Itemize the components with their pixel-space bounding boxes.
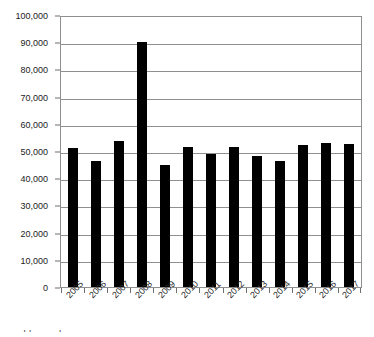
bars-layer xyxy=(61,16,361,287)
bar-slot xyxy=(338,16,361,287)
bar-slot xyxy=(61,16,84,287)
bar-slot xyxy=(246,16,269,287)
bar-2014[interactable] xyxy=(275,161,285,287)
bar-chart-figure: 010,00020,00030,00040,00050,00060,00070,… xyxy=(0,0,374,337)
y-axis-tick-label: 70,000 xyxy=(20,93,48,103)
bar-2009[interactable] xyxy=(160,165,170,287)
bar-2008[interactable] xyxy=(137,42,147,287)
y-axis-tick-label: 0 xyxy=(43,283,48,293)
bar-2015[interactable] xyxy=(298,145,308,287)
y-axis-tick-label: 60,000 xyxy=(20,120,48,130)
bar-2011[interactable] xyxy=(206,154,216,287)
bar-slot xyxy=(292,16,315,287)
y-axis-tick-label: 50,000 xyxy=(20,147,48,157)
bar-slot xyxy=(199,16,222,287)
bar-2006[interactable] xyxy=(91,161,101,287)
bar-slot xyxy=(107,16,130,287)
bar-2013[interactable] xyxy=(252,156,262,287)
x-axis-labels: 2005200620072008200920102011201220132014… xyxy=(61,293,361,327)
caption-clip: clipped caption xyxy=(0,330,374,337)
y-axis-tick-label: 80,000 xyxy=(20,65,48,75)
bar-2016[interactable] xyxy=(321,143,331,287)
y-axis: 010,00020,00030,00040,00050,00060,00070,… xyxy=(0,0,56,337)
bar-2010[interactable] xyxy=(183,147,193,287)
y-axis-tick-label: 20,000 xyxy=(20,229,48,239)
bar-slot xyxy=(315,16,338,287)
bar-2005[interactable] xyxy=(68,148,78,287)
bar-2017[interactable] xyxy=(344,144,354,287)
bar-slot xyxy=(130,16,153,287)
bar-slot xyxy=(223,16,246,287)
bar-slot xyxy=(269,16,292,287)
y-axis-tick-label: 100,000 xyxy=(15,11,48,21)
y-axis-tick-label: 30,000 xyxy=(20,201,48,211)
bar-slot xyxy=(176,16,199,287)
bar-slot xyxy=(153,16,176,287)
bar-slot xyxy=(84,16,107,287)
figure-caption: clipped caption xyxy=(14,330,81,332)
bar-2007[interactable] xyxy=(114,141,124,287)
y-axis-tick-label: 90,000 xyxy=(20,38,48,48)
bar-2012[interactable] xyxy=(229,147,239,287)
y-axis-tick-label: 10,000 xyxy=(20,256,48,266)
y-axis-tick-label: 40,000 xyxy=(20,174,48,184)
